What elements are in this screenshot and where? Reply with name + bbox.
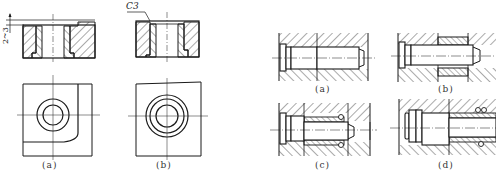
left-a-section-view	[6, 13, 95, 62]
dimension-label: 2~3	[1, 27, 10, 44]
right-panel-a-caption: (a)	[315, 84, 330, 94]
right-b-assembly	[391, 33, 496, 82]
left-panel-a-caption: (a)	[42, 160, 57, 170]
right-panel-b-caption: (b)	[438, 84, 454, 94]
chamfer-label: C3	[126, 1, 139, 11]
drawing-canvas	[0, 0, 496, 183]
right-a-assembly	[272, 33, 377, 81]
right-d-assembly	[390, 99, 496, 155]
right-panel-c-caption: (c)	[315, 160, 330, 170]
left-b-section-view	[127, 12, 199, 62]
left-b-plan-view	[128, 78, 208, 160]
right-c-assembly	[270, 103, 377, 156]
left-panel-b-caption: (b)	[156, 160, 172, 170]
left-a-plan-view	[17, 75, 100, 160]
right-panel-d-caption: (d)	[438, 160, 454, 170]
